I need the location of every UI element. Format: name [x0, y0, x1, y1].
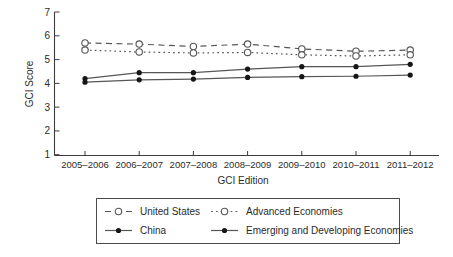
- data-point-filled-circle: [299, 74, 304, 79]
- data-point-filled-circle: [353, 74, 358, 79]
- data-point-filled-circle: [191, 76, 196, 81]
- legend-item-china: China: [105, 225, 211, 236]
- axes: 12345672005–20062006–20072007–20082008–2…: [44, 7, 439, 170]
- data-point-open-circle: [353, 53, 359, 59]
- data-point-open-circle: [136, 49, 142, 55]
- data-point-open-circle: [82, 40, 88, 46]
- data-point-filled-circle: [245, 75, 250, 80]
- legend-label: Advanced Economies: [246, 206, 343, 217]
- y-tick-label: 7: [44, 7, 50, 18]
- data-point-filled-circle: [137, 70, 142, 75]
- legend-filled-circle-marker: [222, 228, 227, 233]
- data-point-filled-circle: [408, 62, 413, 67]
- legend-dotted-open-circle-icon: [211, 206, 238, 217]
- legend-item-emerging-and-developing-economies: Emerging and Developing Economies: [211, 225, 413, 236]
- legend-label: United States: [140, 206, 200, 217]
- legend-label: Emerging and Developing Economies: [246, 225, 413, 236]
- data-point-open-circle: [244, 49, 250, 55]
- y-tick-label: 3: [44, 102, 50, 113]
- series: [82, 40, 414, 85]
- x-tick-label: 2007–2008: [170, 159, 218, 170]
- legend-filled-circle-marker: [116, 228, 121, 233]
- y-tick-label: 5: [44, 54, 50, 65]
- y-tick-label: 6: [44, 30, 50, 41]
- series-advanced-economies: [82, 47, 414, 59]
- x-tick-label: 2006–2007: [115, 159, 163, 170]
- legend-item-advanced-economies: Advanced Economies: [211, 206, 413, 217]
- x-tick-label: 2010–2011: [333, 159, 380, 170]
- x-axis-title: GCI Edition: [217, 175, 268, 186]
- legend-solid-filled-circle-icon: [211, 225, 238, 236]
- data-point-open-circle: [244, 41, 250, 47]
- y-tick-label: 2: [44, 125, 50, 136]
- data-point-open-circle: [299, 52, 305, 58]
- series-emerging-and-developing-economies: [82, 72, 412, 84]
- chart-legend: United StatesAdvanced EconomiesChinaEmer…: [96, 198, 400, 244]
- data-point-filled-circle: [82, 80, 87, 85]
- data-point-filled-circle: [408, 72, 413, 77]
- y-axis-title: GCI Score: [24, 60, 35, 107]
- data-point-filled-circle: [137, 77, 142, 82]
- legend-open-circle-marker: [115, 209, 121, 215]
- legend-solid-filled-circle-icon: [105, 225, 132, 236]
- data-point-filled-circle: [245, 66, 250, 71]
- data-point-open-circle: [136, 41, 142, 47]
- data-point-open-circle: [190, 43, 196, 49]
- data-point-open-circle: [190, 50, 196, 56]
- chart-figure: 12345672005–20062006–20072007–20082008–2…: [0, 0, 453, 257]
- data-point-open-circle: [407, 52, 413, 58]
- data-point-open-circle: [82, 47, 88, 53]
- x-tick-label: 2011–2012: [387, 159, 434, 170]
- x-tick-label: 2008–2009: [224, 159, 272, 170]
- data-point-filled-circle: [191, 70, 196, 75]
- y-tick-label: 4: [44, 78, 50, 89]
- legend-dashed-open-circle-icon: [105, 206, 132, 217]
- x-tick-label: 2005–2006: [61, 159, 109, 170]
- legend-item-united-states: United States: [105, 206, 211, 217]
- data-point-filled-circle: [299, 64, 304, 69]
- legend-label: China: [140, 225, 166, 236]
- legend-open-circle-marker: [221, 209, 227, 215]
- y-tick-label: 1: [44, 149, 50, 160]
- x-tick-label: 2009–2010: [278, 159, 326, 170]
- data-point-filled-circle: [353, 64, 358, 69]
